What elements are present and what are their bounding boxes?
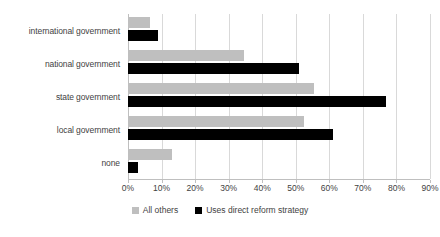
bar-group <box>128 113 430 146</box>
legend-swatch-icon <box>132 207 139 214</box>
bar-direct-reform <box>128 129 333 140</box>
bar-chart: international governmentnational governm… <box>0 0 440 237</box>
category-label: national government <box>45 47 120 80</box>
bar-direct-reform <box>128 30 158 41</box>
bar-direct-reform <box>128 63 299 74</box>
x-tick-label: 40% <box>254 183 271 193</box>
x-tick-label: 70% <box>354 183 371 193</box>
x-tick-label: 60% <box>321 183 338 193</box>
category-label: none <box>101 146 120 179</box>
category-label: international government <box>29 14 120 47</box>
bar-direct-reform <box>128 162 138 173</box>
x-tick-label: 10% <box>153 183 170 193</box>
legend-item[interactable]: Uses direct reform strategy <box>195 205 308 215</box>
x-tick-label: 30% <box>220 183 237 193</box>
bar-direct-reform <box>128 96 386 107</box>
x-tick-label: 80% <box>388 183 405 193</box>
bar-group <box>128 146 430 179</box>
bar-all-others <box>128 149 172 160</box>
legend-label: All others <box>143 205 178 215</box>
category-label: local government <box>57 113 120 146</box>
gridline-90 <box>430 14 431 179</box>
category-axis-labels: international governmentnational governm… <box>0 14 124 179</box>
x-tick-label: 20% <box>187 183 204 193</box>
plot-area <box>128 14 430 179</box>
x-axis-tick-labels: 0%10%20%30%40%50%60%70%80%90% <box>128 183 430 197</box>
bar-all-others <box>128 50 244 61</box>
legend-item[interactable]: All others <box>132 205 178 215</box>
bar-rows <box>128 14 430 179</box>
x-tick-label: 0% <box>122 183 134 193</box>
legend-swatch-icon <box>195 207 202 214</box>
x-tick-label: 90% <box>421 183 438 193</box>
bar-group <box>128 47 430 80</box>
category-label: state government <box>56 80 120 113</box>
bar-all-others <box>128 17 150 28</box>
legend-label: Uses direct reform strategy <box>206 205 308 215</box>
bar-all-others <box>128 83 314 94</box>
x-tick-label: 50% <box>287 183 304 193</box>
bar-all-others <box>128 116 304 127</box>
chart-legend: All othersUses direct reform strategy <box>0 205 440 215</box>
bar-group <box>128 80 430 113</box>
bar-group <box>128 14 430 47</box>
